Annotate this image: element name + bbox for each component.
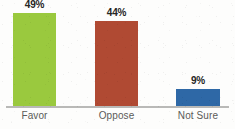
plot-area: 49% 44% 9% (0, 0, 235, 107)
category-axis: Favor Oppose Not Sure (0, 109, 235, 129)
bar-group-favor[interactable]: 49% (13, 0, 56, 107)
bar-chart: 49% 44% 9% Favor Oppose Not Sure (0, 0, 235, 129)
bar-oppose[interactable] (95, 21, 138, 107)
bar-value-label-oppose: 44% (107, 8, 126, 18)
bar-favor[interactable] (13, 13, 56, 107)
bar-group-oppose[interactable]: 44% (95, 0, 138, 107)
category-label-oppose: Oppose (85, 109, 148, 123)
bar-value-label-favor: 49% (25, 0, 44, 10)
bar-group-not-sure[interactable]: 9% (176, 0, 220, 107)
bar-not-sure[interactable] (176, 89, 220, 107)
baseline-axis (6, 106, 229, 108)
category-label-favor: Favor (3, 109, 66, 123)
bar-value-label-not-sure: 9% (191, 76, 205, 86)
category-label-not-sure: Not Sure (165, 109, 231, 123)
